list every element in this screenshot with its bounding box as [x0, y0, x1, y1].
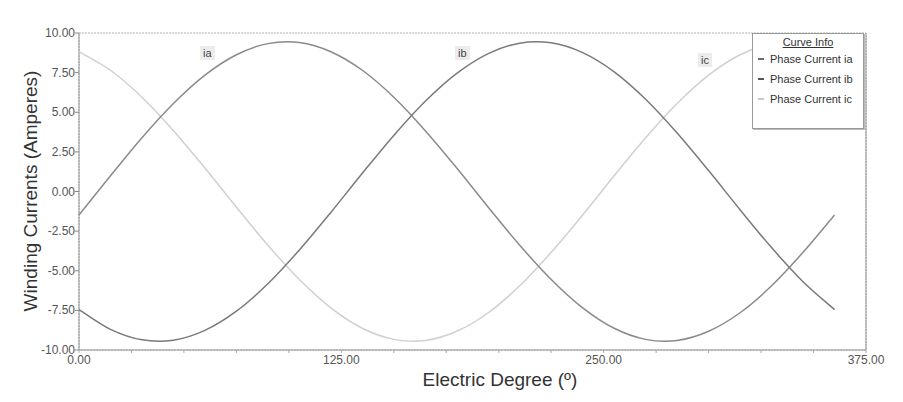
y-tick-label: -5.00: [48, 264, 76, 278]
y-tick-label: 5.00: [52, 105, 76, 119]
legend-title: Curve Info: [753, 35, 863, 49]
y-tick-label: 2.50: [52, 145, 76, 159]
legend-label: Phase Current ia: [770, 53, 853, 65]
legend-swatch-ib: [758, 78, 764, 80]
plot-border: [79, 33, 866, 350]
x-tick-label: 250.00: [585, 353, 622, 367]
y-tick-label: 0.00: [52, 185, 76, 199]
legend-swatch-ia: [758, 58, 764, 60]
curve-tag-ia: ia: [200, 46, 215, 60]
y-tick-label: 7.50: [52, 66, 76, 80]
legend-item-ic[interactable]: Phase Current ic: [753, 89, 863, 109]
legend-swatch-ic: [758, 98, 764, 100]
curve-tag-ib: ib: [455, 46, 470, 60]
legend-label: Phase Current ib: [770, 73, 853, 85]
curve-tag-ic: ic: [698, 53, 712, 67]
legend-item-ia[interactable]: Phase Current ia: [753, 49, 863, 69]
legend-label: Phase Current ic: [770, 93, 852, 105]
x-tick-label: 125.00: [323, 353, 360, 367]
y-axis-title: Winding Currents (Amperes): [20, 71, 41, 312]
y-tick-label: -2.50: [48, 224, 76, 238]
x-tick-label: 375.00: [848, 353, 885, 367]
legend: Curve Info Phase Current ia Phase Curren…: [752, 33, 864, 129]
x-axis-title: Electric Degree (º): [423, 369, 578, 390]
y-tick-label: -7.50: [48, 303, 76, 317]
legend-item-ib[interactable]: Phase Current ib: [753, 69, 863, 89]
y-tick-label: 10.00: [45, 26, 75, 40]
plot-area: [79, 33, 866, 350]
x-tick-label: 0.00: [67, 353, 91, 367]
